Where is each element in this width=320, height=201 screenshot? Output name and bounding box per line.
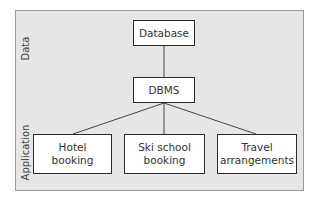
node-ski-school-booking: Ski school booking <box>124 134 205 174</box>
node-hotel-label-line1: Hotel <box>59 141 87 154</box>
edge-dbms-travel <box>164 103 256 134</box>
node-travel-label-line2: arrangements <box>220 154 294 167</box>
node-dbms: DBMS <box>133 77 195 103</box>
node-database-label: Database <box>139 27 189 40</box>
node-travel-label-line1: Travel <box>241 141 272 154</box>
node-ski-label-line1: Ski school <box>138 141 191 154</box>
node-dbms-label: DBMS <box>148 84 179 97</box>
node-hotel-label-line2: booking <box>52 154 94 167</box>
node-database: Database <box>133 20 195 46</box>
layer-label-application: Application <box>20 124 31 182</box>
node-hotel-booking: Hotel booking <box>33 134 112 174</box>
node-ski-label-line2: booking <box>144 154 186 167</box>
layer-label-data: Data <box>20 34 31 64</box>
node-travel-arrangements: Travel arrangements <box>217 134 297 174</box>
edge-dbms-hotel <box>73 103 164 134</box>
